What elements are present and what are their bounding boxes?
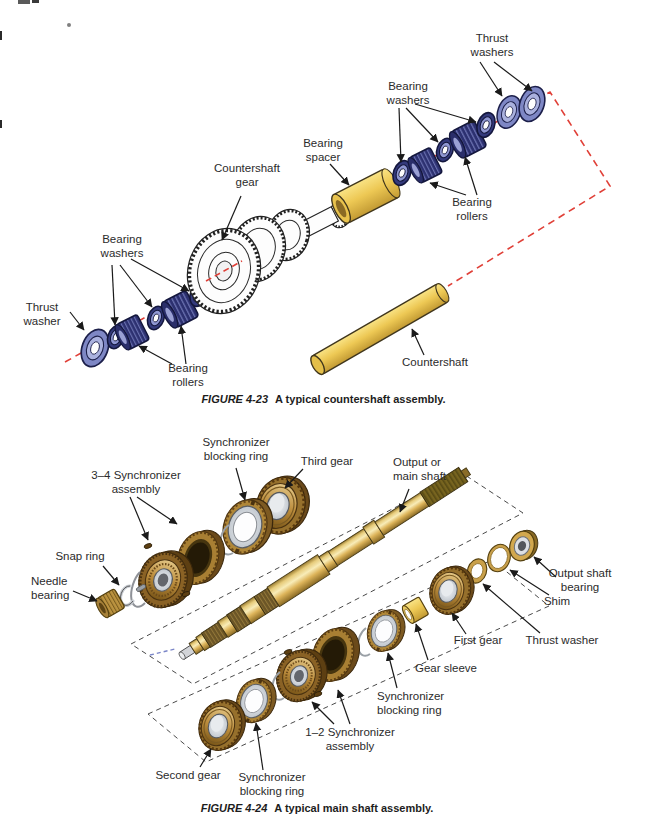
label-bearing-washers-right: Bearing washers xyxy=(368,80,448,108)
label-bearing-spacer: Bearing spacer xyxy=(284,137,362,165)
label-synchronizer-blocking-ring-bottom: Synchronizer blocking ring xyxy=(222,771,322,799)
diagram-canvas xyxy=(0,0,654,840)
label-thrust-washer: Thrust washer xyxy=(10,301,74,329)
label-countershaft-gear: Countershaft gear xyxy=(196,162,298,190)
label-arrow xyxy=(330,164,349,185)
textbook-page: Thrust washers Bearing washers Bearing s… xyxy=(0,0,654,840)
label-synchronizer-assembly-12: 1–2 Synchronizer assembly xyxy=(290,726,410,754)
label-arrow xyxy=(338,690,350,724)
label-arrow xyxy=(181,326,186,364)
label-arrow xyxy=(112,265,115,325)
shaft-axis-blue-dashed xyxy=(150,649,175,655)
label-arrow xyxy=(256,723,263,770)
figure-4-23-caption-text: A typical countershaft assembly. xyxy=(275,393,446,405)
label-bearing-washers-left: Bearing washers xyxy=(82,233,162,261)
label-arrow xyxy=(131,259,189,291)
label-thrust-washers: Thrust washers xyxy=(452,32,532,60)
label-arrow xyxy=(406,108,438,142)
label-snap-ring: Snap ring xyxy=(53,550,107,564)
label-synchronizer-assembly-34: 3–4 Synchronizer assembly xyxy=(72,469,200,497)
thrust-washer-part xyxy=(515,83,550,125)
label-arrow xyxy=(412,329,424,355)
label-arrow xyxy=(312,702,334,724)
label-bearing-rollers-right: Bearing rollers xyxy=(432,196,512,224)
scan-artifacts xyxy=(0,0,71,128)
figure-4-23-artwork xyxy=(65,62,610,377)
label-output-shaft-bearing: Output shaft bearing xyxy=(536,567,624,595)
label-needle-bearing: Needle bearing xyxy=(31,575,77,603)
label-arrow xyxy=(130,497,148,540)
figure-4-24-artwork xyxy=(73,462,556,770)
label-gear-sleeve: Gear sleeve xyxy=(404,662,488,676)
figure-4-23-caption: FIGURE 4-23A typical countershaft assemb… xyxy=(0,393,647,405)
figure-4-24-number: FIGURE 4-24 xyxy=(201,802,268,814)
label-arrow xyxy=(430,183,466,195)
label-second-gear: Second gear xyxy=(142,769,234,783)
label-shim: Shim xyxy=(534,595,580,609)
label-synchronizer-blocking-ring-mid: Synchronizer blocking ring xyxy=(377,690,477,718)
countershaft-gear-drawing xyxy=(178,196,356,323)
label-output-main-shaft: Output or main shaft xyxy=(393,456,473,484)
label-arrow xyxy=(399,108,401,162)
label-arrow xyxy=(480,62,502,96)
thrust-washer-left-part xyxy=(76,326,113,371)
label-bearing-rollers-left: Bearing rollers xyxy=(148,362,228,390)
label-third-gear: Third gear xyxy=(288,455,366,469)
label-arrow xyxy=(137,497,177,524)
figure-4-24-caption-text: A typical main shaft assembly. xyxy=(274,802,433,814)
label-thrust-washer-2: Thrust washer xyxy=(512,634,612,648)
label-arrow xyxy=(494,62,532,91)
label-arrow xyxy=(452,613,466,634)
label-arrow xyxy=(465,157,477,195)
label-first-gear: First gear xyxy=(443,634,513,648)
figure-4-23-number: FIGURE 4-23 xyxy=(201,393,268,405)
label-arrow xyxy=(236,468,245,500)
label-synchronizer-blocking-ring-top: Synchronizer blocking ring xyxy=(182,436,290,464)
label-arrow xyxy=(103,566,119,585)
label-arrow xyxy=(388,653,397,688)
label-arrow xyxy=(416,624,428,660)
figure-4-24-label-arrows xyxy=(73,468,556,770)
figure-4-24-caption: FIGURE 4-24A typical main shaft assembly… xyxy=(0,802,634,814)
synchronizer-key xyxy=(143,543,152,550)
label-countershaft: Countershaft xyxy=(385,356,485,370)
label-arrow xyxy=(120,265,152,307)
